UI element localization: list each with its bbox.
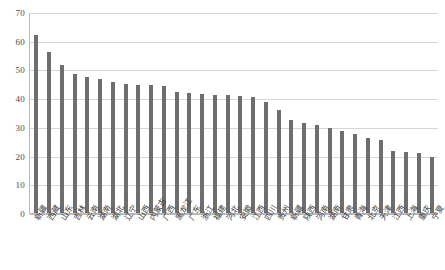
x-label-slot: 安徽: [234, 215, 247, 270]
bar: [226, 95, 230, 213]
bar-slot: [68, 13, 81, 213]
x-label-slot: 山东: [55, 215, 68, 270]
plot-area: 010203040506070: [29, 13, 438, 214]
bar: [302, 123, 306, 213]
x-label-slot: 福建: [208, 215, 221, 270]
bar-slot: [107, 13, 120, 213]
bar-slot: [400, 13, 413, 213]
bar-slot: [81, 13, 94, 213]
bar: [417, 153, 421, 213]
bar-slot: [196, 13, 209, 213]
bar: [430, 157, 434, 213]
x-label-slot: 陕西: [297, 215, 310, 270]
bar-slot: [145, 13, 158, 213]
bar: [353, 134, 357, 213]
y-tick-label: 70: [16, 9, 25, 18]
x-label-slot: 青海: [349, 215, 362, 270]
x-label-slot: 广东: [182, 215, 195, 270]
y-tick-label: 30: [16, 123, 25, 132]
x-label-slot: 内蒙古: [144, 215, 157, 270]
x-axis-labels: 新疆西藏山东吉林云南湖南湖北辽宁山西内蒙古广西黑龙江广东浙江福建河北安徽江西四川…: [29, 215, 438, 270]
x-label-slot: 山西: [131, 215, 144, 270]
x-label-slot: 河南: [310, 215, 323, 270]
bar: [213, 95, 217, 213]
x-label-slot: 贵州: [272, 215, 285, 270]
bar-slot: [374, 13, 387, 213]
x-label-slot: 河北: [221, 215, 234, 270]
bar: [162, 86, 166, 213]
bar-slot: [387, 13, 400, 213]
bar-slot: [43, 13, 56, 213]
bar-slot: [336, 13, 349, 213]
bar-slot: [362, 13, 375, 213]
bar-slot: [298, 13, 311, 213]
x-label-slot: 云南: [80, 215, 93, 270]
x-label-slot: 重庆: [412, 215, 425, 270]
x-label-slot: 广西: [157, 215, 170, 270]
bar: [340, 131, 344, 213]
bar: [187, 93, 191, 213]
x-label-slot: 宁夏: [425, 215, 438, 270]
bar: [391, 151, 395, 213]
y-tick-label: 20: [16, 152, 25, 161]
bar: [85, 77, 89, 213]
bar: [200, 94, 204, 213]
x-label-slot: 新疆: [285, 215, 298, 270]
x-label-slot: 湖南: [93, 215, 106, 270]
bar-slot: [56, 13, 69, 213]
bar: [98, 79, 102, 213]
bar: [264, 102, 268, 213]
bar-slot: [119, 13, 132, 213]
x-label-slot: 新疆: [29, 215, 42, 270]
x-label-slot: 江西: [246, 215, 259, 270]
bar-chart: 010203040506070 新疆西藏山东吉林云南湖南湖北辽宁山西内蒙古广西黑…: [0, 0, 445, 270]
bar-slot: [132, 13, 145, 213]
y-tick-label: 0: [20, 210, 25, 219]
x-label-slot: 西藏: [42, 215, 55, 270]
bar-slot: [234, 13, 247, 213]
bar: [111, 82, 115, 213]
x-label-slot: 甘肃: [336, 215, 349, 270]
x-label-slot: 北京: [361, 215, 374, 270]
x-label-slot: 四川: [259, 215, 272, 270]
x-label-slot: 辽宁: [118, 215, 131, 270]
x-label-slot: 天津: [374, 215, 387, 270]
bar: [289, 120, 293, 213]
bar: [277, 110, 281, 213]
bar-slot: [311, 13, 324, 213]
bar-slot: [209, 13, 222, 213]
bar: [124, 84, 128, 213]
bar: [175, 92, 179, 213]
bar: [251, 97, 255, 213]
bar: [328, 128, 332, 213]
bar-slot: [349, 13, 362, 213]
y-tick-label: 60: [16, 37, 25, 46]
x-label-slot: 湖南: [323, 215, 336, 270]
bar-slot: [183, 13, 196, 213]
bar-slot: [323, 13, 336, 213]
bar: [238, 96, 242, 213]
bar-slot: [221, 13, 234, 213]
bar: [73, 74, 77, 213]
bar: [34, 35, 38, 213]
x-label-slot: 湖北: [106, 215, 119, 270]
bar-slot: [272, 13, 285, 213]
bar-slot: [30, 13, 43, 213]
bars-group: [30, 13, 438, 213]
bar-slot: [413, 13, 426, 213]
y-tick-label: 40: [16, 95, 25, 104]
bar-slot: [260, 13, 273, 213]
x-label-slot: 黑龙江: [170, 215, 183, 270]
bar: [366, 138, 370, 213]
bar: [379, 140, 383, 213]
y-tick-label: 10: [16, 181, 25, 190]
bar: [60, 65, 64, 213]
bar: [149, 85, 153, 213]
bar-slot: [425, 13, 438, 213]
bar: [47, 52, 51, 213]
x-label-slot: 吉林: [67, 215, 80, 270]
bar-slot: [170, 13, 183, 213]
y-tick-label: 50: [16, 66, 25, 75]
bar-slot: [285, 13, 298, 213]
bar-slot: [94, 13, 107, 213]
